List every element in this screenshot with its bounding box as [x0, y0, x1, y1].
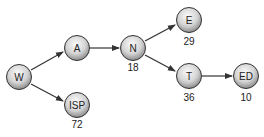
- node-t: T 36: [177, 64, 202, 104]
- svg-text:A: A: [74, 43, 81, 54]
- svg-text:ED: ED: [239, 71, 253, 82]
- edge-w-isp: [31, 84, 63, 101]
- node-ed: ED 10: [234, 64, 259, 104]
- node-e-value: 29: [183, 36, 195, 47]
- edge-n-t: [145, 55, 175, 71]
- node-a: A: [65, 36, 90, 61]
- node-n: N 18: [121, 36, 146, 74]
- svg-text:W: W: [14, 72, 24, 83]
- node-isp: ISP 72: [65, 93, 90, 131]
- svg-text:E: E: [186, 15, 193, 26]
- svg-text:T: T: [186, 71, 192, 82]
- node-isp-value: 72: [71, 119, 83, 130]
- edge-n-e: [145, 25, 175, 41]
- edge-w-a: [31, 52, 63, 70]
- graph-diagram: W A ISP 72 N 18 E 29 T 36 ED 10: [0, 0, 264, 137]
- node-n-value: 18: [127, 62, 139, 73]
- node-e: E 29: [177, 8, 202, 48]
- svg-text:ISP: ISP: [69, 100, 85, 111]
- node-w: W: [7, 65, 32, 90]
- node-ed-value: 10: [240, 92, 252, 103]
- svg-text:N: N: [129, 43, 136, 54]
- node-t-value: 36: [183, 92, 195, 103]
